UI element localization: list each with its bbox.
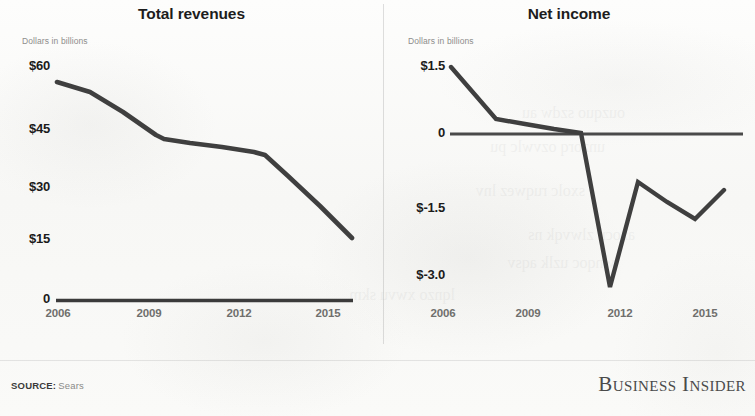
series-line-total-revenues <box>57 82 352 238</box>
business-insider-logo: Business Insider <box>598 372 746 397</box>
xtick-net-income-2006: 2006 <box>417 307 469 319</box>
xtick-net-income-2009: 2009 <box>502 307 554 319</box>
series-line-net-income <box>451 67 724 287</box>
xtick-total-revenues-2012: 2012 <box>213 307 265 319</box>
xtick-total-revenues-2006: 2006 <box>32 307 84 319</box>
xtick-total-revenues-2015: 2015 <box>302 307 354 319</box>
source-credit: SOURCE:Sears <box>11 380 84 391</box>
xtick-net-income-2015: 2015 <box>679 307 731 319</box>
xtick-net-income-2012: 2012 <box>594 307 646 319</box>
chart-panel-net-income: Net income Dollars in billions $1.5 0 $-… <box>383 0 755 360</box>
chart-panel-total-revenues: Total revenues Dollars in billions $60 $… <box>0 0 383 360</box>
plot-area-net-income <box>383 0 755 360</box>
source-value: Sears <box>58 380 84 391</box>
figure-footer: SOURCE:Sears Business Insider <box>0 360 755 416</box>
xtick-total-revenues-2009: 2009 <box>123 307 175 319</box>
source-label: SOURCE: <box>11 380 56 391</box>
footer-divider <box>0 360 755 361</box>
plot-area-total-revenues <box>0 0 383 360</box>
figure-screenshot: ouzquo szdw au unzorq ozvwlc pu sxolc ru… <box>0 0 755 416</box>
